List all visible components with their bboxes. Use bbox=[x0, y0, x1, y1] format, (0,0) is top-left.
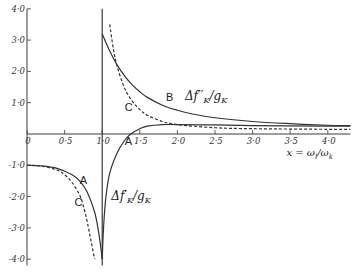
x-tick-label: 2·0 bbox=[171, 136, 186, 146]
labels-group: BCAACΔf′′K/gKΔf′K/gKx = ωl/ωk bbox=[74, 89, 333, 208]
x-tick-label: 3·0 bbox=[247, 136, 261, 146]
x-tick-label: 1·0 bbox=[96, 136, 110, 146]
curve-label-b: B bbox=[166, 91, 173, 103]
y-tick-label: -2·0 bbox=[9, 192, 26, 202]
function-label-part: /g bbox=[132, 189, 145, 203]
x-tick-label: 0·5 bbox=[59, 136, 73, 146]
x-axis-title: x = ωl/ωk bbox=[286, 147, 333, 161]
y-tick-label: -3·0 bbox=[9, 223, 26, 233]
axes: 00·51·01·52·02·53·03·54·04·03·02·01·0-1·… bbox=[9, 4, 351, 266]
curve-label-c: C bbox=[74, 196, 82, 208]
x-tick-label: 0 bbox=[25, 136, 31, 146]
y-tick-label: -1·0 bbox=[9, 160, 26, 170]
x-tick-label: 4·0 bbox=[321, 136, 336, 146]
chart: 00·51·01·52·02·53·03·54·04·03·02·01·0-1·… bbox=[0, 0, 360, 276]
y-tick-label: 4·0 bbox=[10, 4, 25, 14]
axis-title-part: ω bbox=[307, 147, 315, 158]
y-tick-label: -4·0 bbox=[9, 254, 26, 264]
function-label-f-double-prime: Δf′′K/gK bbox=[184, 89, 228, 105]
series-line-b-solid bbox=[102, 34, 350, 126]
series-line-c-dashed bbox=[110, 24, 351, 129]
function-label-part: K bbox=[144, 196, 152, 205]
curve-label-a: A bbox=[125, 135, 133, 147]
curve-label-c: C bbox=[125, 101, 133, 113]
curve-label-a: A bbox=[80, 174, 88, 186]
axis-title-part: = bbox=[292, 147, 307, 158]
axis-title-part: ω bbox=[321, 147, 329, 158]
function-label-part: /g bbox=[208, 89, 221, 103]
y-tick-label: 3·0 bbox=[11, 35, 25, 45]
series-group bbox=[27, 24, 350, 259]
function-label-part: K bbox=[220, 96, 228, 105]
function-label-f-prime: Δf′K/gK bbox=[110, 189, 152, 205]
x-tick-label: 3·5 bbox=[284, 136, 298, 146]
x-tick-label: 2·5 bbox=[208, 136, 223, 146]
axis-title-part: k bbox=[329, 153, 333, 161]
y-tick-label: 2·0 bbox=[10, 66, 25, 76]
x-tick-label: 1·5 bbox=[134, 136, 148, 146]
series-line-a-solid bbox=[27, 165, 102, 259]
y-tick-label: 1·0 bbox=[11, 98, 25, 108]
